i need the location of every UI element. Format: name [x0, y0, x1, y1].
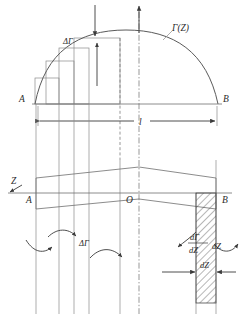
label-gamma-z: Γ(Z) — [171, 23, 189, 34]
label-point-b-mid: B — [222, 195, 228, 205]
step-rectangles — [35, 38, 120, 104]
span-dimension — [38, 106, 217, 126]
label-dz: dZ — [200, 260, 209, 270]
label-point-a-mid: A — [25, 195, 32, 205]
derivative-denominator: dZ — [189, 245, 198, 255]
derivative-numerator: dΓ — [190, 232, 200, 242]
label-span-l: l — [139, 117, 142, 127]
z-axis-arrow — [10, 185, 22, 192]
label-delta-gamma-bottom: ΔΓ — [78, 238, 90, 248]
vortex-filaments — [36, 104, 216, 314]
derivative-multiplier: dZ — [212, 241, 221, 251]
label-axis-z: Z — [11, 176, 17, 186]
label-delta-gamma-top: ΔΓ — [62, 36, 74, 46]
label-point-b-top: B — [223, 94, 229, 104]
label-point-a-top: A — [18, 94, 25, 104]
figure-canvas: Γ(Z) ΔΓ A B l Z A O B ΔΓ dΓ dZ dZ dZ — [0, 0, 241, 318]
label-origin-o: O — [126, 195, 133, 205]
circulation-diagram: Γ(Z) ΔΓ A B l Z A O B ΔΓ dΓ dZ dZ dZ — [0, 0, 241, 318]
